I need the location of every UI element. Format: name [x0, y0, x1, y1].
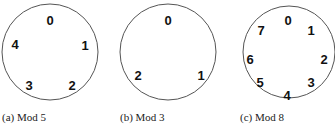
residue-label: 1: [307, 23, 314, 38]
residue-label: 3: [307, 75, 314, 90]
residue-label: 0: [164, 13, 171, 28]
residue-label: 0: [46, 13, 53, 28]
clock-diagram-b: 012(b) Mod 3: [120, 4, 216, 124]
residue-label: 2: [320, 52, 327, 67]
residue-label: 1: [197, 68, 204, 83]
figure-caption: (a) Mod 5: [2, 111, 46, 124]
residue-label: 0: [284, 13, 291, 28]
residue-label: 2: [68, 78, 75, 93]
figure-caption: (b) Mod 3: [120, 111, 165, 124]
residue-label: 2: [134, 68, 141, 83]
residue-label: 5: [256, 75, 263, 90]
figure-caption: (c) Mod 8: [240, 111, 284, 124]
modular-clock-diagrams: 01234(a) Mod 5012(b) Mod 301234567(c) Mo…: [0, 0, 335, 128]
residue-label: 3: [25, 78, 32, 93]
clock-diagram-c: 01234567(c) Mod 8: [240, 6, 335, 124]
residue-label: 4: [11, 37, 19, 52]
residue-label: 6: [246, 52, 253, 67]
clock-diagram-a: 01234(a) Mod 5: [2, 4, 98, 124]
residue-label: 4: [283, 88, 291, 103]
residue-label: 1: [81, 38, 88, 53]
residue-label: 7: [257, 23, 264, 38]
